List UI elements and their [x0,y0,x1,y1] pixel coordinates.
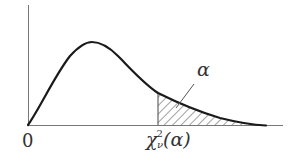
density-curve [28,42,266,126]
chi-symbol: χ [146,128,158,150]
origin-label: 0 [22,130,33,151]
chi-argument: (α) [163,128,191,150]
alpha-area-label: α [197,58,210,80]
critical-value-label: χ2ν(α) [146,128,191,150]
critical-region-hatch [158,93,266,126]
chi-superscript: 2 [157,128,163,139]
